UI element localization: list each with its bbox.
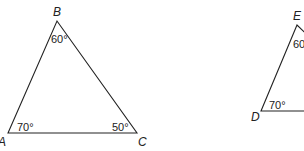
vertex-e-label: E [293, 9, 302, 23]
vertex-b-label: B [53, 5, 61, 19]
angle-a-label: 70° [17, 121, 34, 133]
angle-d-label: 70° [269, 99, 286, 111]
triangles-diagram: B A C 60° 70° 50° E D 60° 70° [0, 0, 304, 151]
triangle-def: E D 60° 70° [251, 9, 304, 124]
vertex-a-label: A [0, 135, 6, 149]
vertex-d-label: D [251, 110, 260, 124]
triangle-abc: B A C 60° 70° 50° [0, 5, 147, 149]
angle-b-label: 60° [51, 33, 68, 45]
angle-c-label: 50° [112, 121, 129, 133]
triangle-abc-outline [8, 21, 137, 133]
angle-e-label: 60° [293, 38, 304, 50]
vertex-c-label: C [138, 135, 147, 149]
